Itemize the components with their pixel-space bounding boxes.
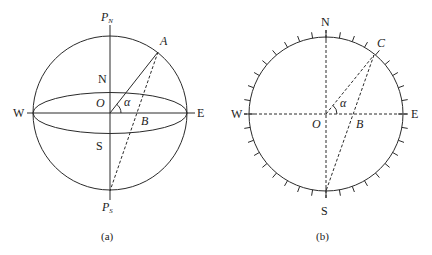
label-point-c: C xyxy=(377,36,386,50)
label-east: E xyxy=(411,107,418,121)
tick-mark xyxy=(352,36,354,42)
tick-mark xyxy=(385,164,390,168)
tick-mark xyxy=(254,73,259,76)
label-west: W xyxy=(13,106,25,120)
figure-b-labels: N C α W E O B S (b) xyxy=(231,15,418,243)
tick-mark xyxy=(273,50,277,55)
caption-b: (b) xyxy=(316,230,329,243)
angle-arc xyxy=(333,106,337,115)
figure-b xyxy=(244,30,408,198)
label-pole-north: PN xyxy=(100,10,113,25)
tick-mark xyxy=(262,164,267,168)
label-origin: O xyxy=(312,117,321,131)
label-north: N xyxy=(98,72,107,86)
tick-mark xyxy=(285,42,288,47)
line-o-to-a xyxy=(110,52,158,113)
tick-mark xyxy=(248,86,254,88)
tick-mark xyxy=(248,140,254,142)
tick-mark xyxy=(312,32,313,38)
label-angle: α xyxy=(124,95,131,109)
label-west: W xyxy=(231,107,243,121)
label-south: S xyxy=(321,204,328,218)
tick-mark xyxy=(398,140,404,142)
dashed-line-a-to-ps xyxy=(110,52,158,191)
label-pole-south: PS xyxy=(101,200,113,215)
tick-mark xyxy=(285,181,288,186)
tick-mark xyxy=(298,36,300,42)
tick-mark xyxy=(376,173,380,178)
tick-mark xyxy=(398,86,404,88)
label-north: N xyxy=(321,15,330,29)
tick-mark xyxy=(339,190,340,196)
caption-a: (a) xyxy=(101,230,114,243)
dashed-line-o-to-c xyxy=(326,55,374,114)
tick-mark xyxy=(365,42,368,47)
tick-mark xyxy=(262,61,267,65)
tick-mark xyxy=(393,153,398,156)
tick-mark xyxy=(339,32,340,38)
label-point-b: B xyxy=(356,117,364,131)
angle-arc xyxy=(117,104,121,113)
tick-mark xyxy=(273,173,277,178)
tick-mark xyxy=(244,100,250,101)
tick-mark xyxy=(254,153,259,156)
label-origin: O xyxy=(96,96,105,110)
tick-mark xyxy=(298,186,300,192)
label-point-b: B xyxy=(141,114,149,128)
tick-mark xyxy=(352,186,354,192)
figure-a xyxy=(27,25,195,200)
tick-mark xyxy=(385,61,390,65)
tick-mark xyxy=(244,127,250,128)
label-angle: α xyxy=(340,96,347,110)
celestial-sphere-figure: PN A N O α W E B S PS (a) N C α W E O B … xyxy=(0,0,432,255)
tick-mark xyxy=(402,127,408,128)
tick-mark xyxy=(312,190,313,196)
tick-mark xyxy=(402,100,408,101)
label-south: S xyxy=(96,139,103,153)
dashed-line-c-to-s xyxy=(326,55,374,191)
label-point-a: A xyxy=(159,34,168,48)
tick-mark xyxy=(376,50,380,55)
label-east: E xyxy=(197,106,204,120)
tick-mark xyxy=(365,181,368,186)
tick-mark xyxy=(393,73,398,76)
figure-a-labels: PN A N O α W E B S PS (a) xyxy=(13,10,204,243)
